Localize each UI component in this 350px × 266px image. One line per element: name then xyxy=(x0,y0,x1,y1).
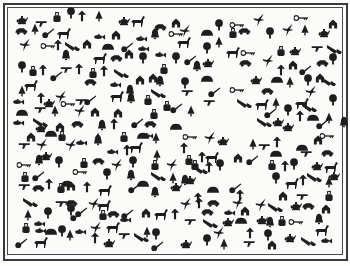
puzzle-picture xyxy=(0,0,350,266)
apple-icon xyxy=(325,192,332,201)
saw-icon xyxy=(327,45,342,55)
car-icon xyxy=(261,88,273,95)
teapot-icon xyxy=(283,123,295,131)
pine-icon xyxy=(95,11,102,22)
key-icon xyxy=(289,220,303,225)
pine-icon xyxy=(31,24,38,35)
fish-icon xyxy=(136,36,147,42)
hedgehog-icon xyxy=(271,77,283,83)
apple-icon xyxy=(151,161,158,170)
bird-icon xyxy=(204,132,215,145)
teapot-icon xyxy=(218,137,230,145)
arrow-icon xyxy=(277,65,285,76)
tree-icon xyxy=(181,77,189,88)
saw-icon xyxy=(302,103,317,113)
hidden-objects-layer xyxy=(13,7,348,251)
arrow-icon xyxy=(83,182,91,193)
pine-icon xyxy=(286,77,293,88)
horse-icon xyxy=(110,91,124,102)
bell-icon xyxy=(340,117,348,128)
house-icon xyxy=(91,107,99,116)
guitar-icon xyxy=(84,95,96,105)
pine-icon xyxy=(215,37,222,48)
arrow-icon xyxy=(198,152,206,163)
key-icon xyxy=(17,163,31,168)
gun-icon xyxy=(259,144,270,150)
guitar-icon xyxy=(208,87,220,97)
key-icon xyxy=(41,44,55,49)
gun-icon xyxy=(185,219,196,225)
horse-icon xyxy=(255,99,269,110)
tree-icon xyxy=(129,156,137,167)
gun-icon xyxy=(36,21,47,27)
house-icon xyxy=(279,191,287,200)
horse-icon xyxy=(106,222,120,233)
car-icon xyxy=(32,185,44,192)
apple-icon xyxy=(80,159,87,168)
guitar-icon xyxy=(15,238,27,248)
car-icon xyxy=(316,60,328,67)
car-icon xyxy=(321,150,333,157)
tree-icon xyxy=(152,228,160,239)
hedgehog-icon xyxy=(235,218,247,224)
fish-icon xyxy=(107,149,118,155)
bell-icon xyxy=(151,187,159,198)
tree-icon xyxy=(44,207,52,218)
apple-icon xyxy=(89,69,96,78)
house-icon xyxy=(241,206,249,215)
apple-icon xyxy=(277,47,284,56)
saw-icon xyxy=(114,69,129,79)
tree-icon xyxy=(103,168,111,179)
arrow-icon xyxy=(110,119,118,130)
bird-icon xyxy=(19,39,30,52)
teapot-icon xyxy=(290,47,302,55)
fish-icon xyxy=(76,140,87,146)
gun-icon xyxy=(19,143,30,149)
arrow-icon xyxy=(296,111,304,122)
bell-icon xyxy=(156,76,164,87)
bird-icon xyxy=(213,227,224,240)
pine-icon xyxy=(220,239,227,250)
house-icon xyxy=(56,122,64,131)
gun-icon xyxy=(19,184,30,190)
fish-icon xyxy=(224,210,235,216)
teapot-icon xyxy=(104,239,116,247)
guitar-icon xyxy=(50,71,62,81)
bird-icon xyxy=(282,24,293,37)
arrow-icon xyxy=(246,228,254,239)
key-icon xyxy=(73,170,87,175)
bird-icon xyxy=(255,199,266,212)
gun-icon xyxy=(297,194,308,200)
guitar-icon xyxy=(121,42,133,52)
horse-icon xyxy=(315,225,329,236)
apple-icon xyxy=(29,67,36,76)
arrow-icon xyxy=(37,93,45,104)
bell-icon xyxy=(315,214,323,225)
house-icon xyxy=(329,19,337,28)
arrow-icon xyxy=(299,175,307,186)
arrow-icon xyxy=(171,209,179,220)
key-icon xyxy=(230,88,244,93)
arrow-icon xyxy=(236,190,244,201)
arrow-icon xyxy=(123,145,131,156)
hedgehog-icon xyxy=(16,110,28,116)
gun-icon xyxy=(301,151,312,157)
bird-icon xyxy=(305,86,316,99)
house-icon xyxy=(316,73,324,82)
hedgehog-icon xyxy=(201,30,213,36)
house-icon xyxy=(314,135,322,144)
pine-icon xyxy=(51,106,58,117)
guitar-icon xyxy=(246,155,258,165)
bird-icon xyxy=(65,139,76,152)
apple-icon xyxy=(120,133,127,142)
teapot-icon xyxy=(223,218,235,226)
guitar-icon xyxy=(264,108,276,118)
hedgehog-icon xyxy=(102,44,114,50)
house-icon xyxy=(27,132,35,141)
house-icon xyxy=(149,73,157,82)
tree-icon xyxy=(18,61,26,72)
apple-icon xyxy=(58,132,65,141)
arrow-icon xyxy=(195,198,203,209)
saw-icon xyxy=(301,237,316,247)
arrow-icon xyxy=(205,162,213,173)
